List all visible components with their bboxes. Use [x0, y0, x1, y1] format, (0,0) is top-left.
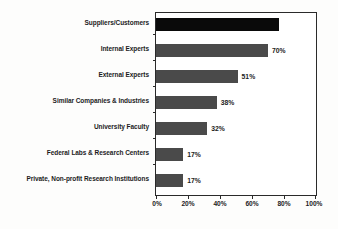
bar: [156, 174, 183, 187]
y-axis-tick: [153, 86, 156, 87]
x-axis-tick-label: 20%: [181, 199, 194, 208]
bar-value-label: 70%: [272, 46, 286, 55]
bar-value-label: 51%: [242, 72, 256, 81]
x-axis-tick-label: 60%: [245, 199, 258, 208]
y-axis-tick: [153, 138, 156, 139]
x-axis-tick-label: 80%: [277, 199, 290, 208]
y-axis-tick: [153, 112, 156, 113]
bar-value-label: 17%: [187, 176, 201, 185]
bar-value-label: 17%: [187, 150, 201, 159]
y-axis-tick: [153, 164, 156, 165]
bar: [156, 148, 183, 161]
category-label: Similar Companies & Industries: [0, 97, 149, 105]
x-axis-labels: 0% 20% 40% 60% 80% 100%: [155, 199, 317, 213]
bar-chart: Suppliers/Customers Internal Experts Ext…: [0, 0, 338, 229]
x-axis-tick-label: 40%: [213, 199, 226, 208]
category-label: Internal Experts: [0, 45, 149, 53]
bar: [156, 44, 268, 57]
bar: [156, 122, 207, 135]
bar: [156, 70, 238, 83]
plot-area: 70% 51% 38% 32% 17% 17%: [155, 12, 317, 196]
x-axis-tick-label: 100%: [306, 199, 323, 208]
category-label: Suppliers/Customers: [0, 19, 149, 27]
y-axis-tick: [153, 60, 156, 61]
bar-value-label: 38%: [221, 98, 235, 107]
y-axis-tick: [153, 34, 156, 35]
x-axis-tick-label: 0%: [152, 199, 162, 208]
category-label: Federal Labs & Research Centers: [0, 149, 149, 157]
category-label: External Experts: [0, 71, 149, 79]
category-axis-labels: Suppliers/Customers Internal Experts Ext…: [0, 12, 153, 196]
bar: [156, 18, 279, 31]
bar: [156, 96, 217, 109]
category-label: University Faculty: [0, 123, 149, 131]
category-label: Private, Non-profit Research Institution…: [0, 175, 149, 183]
bar-value-label: 32%: [211, 124, 225, 133]
